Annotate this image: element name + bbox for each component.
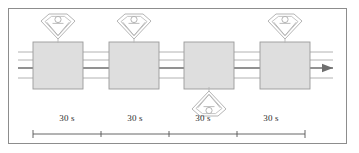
station-shapes [33,42,310,89]
time-segment-label: 30 s [37,113,97,124]
operator-icon-inner-outline [121,16,147,35]
station-box[interactable] [109,42,159,89]
time-segment-label: 30 s [105,113,165,124]
operator-icon[interactable] [192,87,226,116]
operator-arms-icon [47,23,69,36]
operator-icon[interactable] [268,14,302,43]
operator-head-icon [282,16,288,22]
figure-root: 30 s30 s30 s30 s [0,0,359,153]
operator-arms-icon [198,95,220,108]
operator-icon-inner-outline [272,16,298,35]
diagram-canvas [0,0,359,153]
time-segment-label: 30 s [241,113,301,124]
operator-icon[interactable] [41,14,75,43]
time-segment-label: 30 s [173,113,233,124]
operator-head-icon [131,16,137,22]
time-scale-axis [33,130,305,138]
operator-icon[interactable] [117,14,151,43]
operator-arms-icon [274,23,296,36]
operator-icon-inner-outline [45,16,71,35]
operator-arms-icon [123,23,145,36]
station-box[interactable] [184,42,234,89]
conveyor-arrow-icon [322,64,333,72]
station-box[interactable] [33,42,83,89]
operator-icon-inner-outline [196,94,222,113]
operator-head-icon [55,16,61,22]
station-box[interactable] [260,42,310,89]
